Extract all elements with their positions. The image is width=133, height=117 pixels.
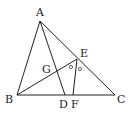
angle-mark-2 <box>78 67 81 70</box>
angle-mark-1 <box>69 65 72 68</box>
point-label-e: E <box>80 47 88 60</box>
point-label-a: A <box>35 6 45 19</box>
segment-CA <box>40 21 115 95</box>
point-label-d: D <box>59 98 68 111</box>
triangle-figure: ABCDEFG <box>0 0 133 117</box>
geometry-diagram: ABCDEFG <box>0 0 133 117</box>
point-label-b: B <box>5 93 13 106</box>
point-label-g: G <box>42 63 51 76</box>
segment-AB <box>17 21 40 95</box>
point-label-c: C <box>117 93 125 106</box>
point-label-f: F <box>71 98 79 111</box>
segment-AD <box>40 21 65 95</box>
segment-EF <box>73 59 77 95</box>
